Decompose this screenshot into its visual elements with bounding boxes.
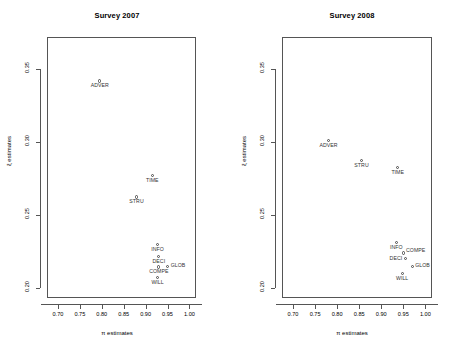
plot-panel-survey-2007: Survey 2007 ADVERTIMESTRUINFODECICOMPEGL…	[0, 0, 234, 355]
y-axis-line	[275, 69, 276, 288]
y-axis-tick-label: 0.35	[254, 62, 270, 76]
y-axis-tick	[36, 69, 40, 70]
x-axis-tick-label: 0.90	[376, 311, 387, 317]
data-layer-right: ADVERSTRUTIMECOMPEINFODECIGLOBWILL	[283, 38, 431, 297]
point-label: COMPE	[149, 269, 168, 274]
figure-canvas: Survey 2007 ADVERTIMESTRUINFODECICOMPEGL…	[0, 0, 469, 355]
x-axis-tick-label: 0.80	[96, 311, 107, 317]
x-axis-tick	[315, 305, 316, 309]
x-axis-tick	[124, 305, 125, 309]
point-label: DECI	[153, 259, 166, 264]
x-axis-tick-label: 0.75	[74, 311, 85, 317]
point-label: INFO	[390, 245, 403, 250]
y-axis-line	[40, 69, 41, 288]
x-axis-tick-label: 0.85	[354, 311, 365, 317]
y-axis-tick	[36, 288, 40, 289]
x-axis-tick	[293, 305, 294, 309]
x-axis-tick	[425, 305, 426, 309]
point-marker-icon	[411, 265, 414, 268]
y-axis-title-left: ξ estimates	[4, 158, 14, 208]
y-axis-tick-label: 0.25	[19, 208, 35, 222]
x-axis-line	[276, 304, 438, 305]
y-axis-tick	[271, 69, 275, 70]
x-axis-tick-label: 0.70	[53, 311, 64, 317]
y-axis-tick-label: 0.30	[19, 135, 35, 149]
x-axis-line	[41, 304, 202, 305]
x-axis-tick-label: 1.00	[184, 311, 195, 317]
x-axis-tick	[381, 305, 382, 309]
panel-title-left: Survey 2007	[0, 11, 234, 20]
x-axis-title-right: π estimates	[235, 330, 469, 336]
point-label: ADVER	[319, 143, 337, 148]
x-axis-tick	[403, 305, 404, 309]
x-axis-tick	[337, 305, 338, 309]
x-axis-tick	[146, 305, 147, 309]
point-marker-icon	[166, 265, 169, 268]
point-label: TIME	[146, 178, 159, 183]
point-label: TIME	[391, 170, 404, 175]
point-marker-icon	[404, 257, 407, 260]
point-label: GLOB	[415, 263, 430, 268]
y-axis-tick-label: 0.30	[254, 135, 270, 149]
x-axis-tick	[58, 305, 59, 309]
y-axis-tick-label: 0.20	[19, 281, 35, 295]
y-axis-title-right: ξ estimates	[239, 158, 249, 208]
y-axis-tick	[271, 215, 275, 216]
point-label: DECI	[390, 256, 403, 261]
y-axis-tick-label: 0.20	[254, 281, 270, 295]
x-axis-tick-label: 0.95	[398, 311, 409, 317]
plot-frame-left: ADVERTIMESTRUINFODECICOMPEGLOBWILL	[47, 37, 196, 298]
data-layer-left: ADVERTIMESTRUINFODECICOMPEGLOBWILL	[48, 38, 195, 297]
x-axis-title-left: π estimates	[0, 330, 234, 336]
x-axis-tick-label: 0.95	[162, 311, 173, 317]
x-axis-tick	[168, 305, 169, 309]
point-label: WILL	[396, 276, 408, 281]
x-axis-tick-label: 1.00	[420, 311, 431, 317]
point-label: STRU	[354, 163, 368, 168]
x-axis-tick	[102, 305, 103, 309]
x-axis-tick	[359, 305, 360, 309]
point-marker-icon	[402, 251, 405, 254]
x-axis-tick-label: 0.90	[140, 311, 151, 317]
panel-title-right: Survey 2008	[235, 11, 469, 20]
y-axis-tick	[36, 215, 40, 216]
x-axis-tick-label: 0.85	[118, 311, 129, 317]
x-axis-tick-label: 0.70	[288, 311, 299, 317]
x-axis-tick-label: 0.80	[332, 311, 343, 317]
point-label: WILL	[151, 280, 163, 285]
y-axis-tick	[36, 142, 40, 143]
y-axis-tick-label: 0.35	[19, 62, 35, 76]
point-label: STRU	[129, 199, 143, 204]
point-label: INFO	[151, 247, 164, 252]
y-axis-tick-label: 0.25	[254, 208, 270, 222]
plot-panel-survey-2008: Survey 2008 ADVERSTRUTIMECOMPEINFODECIGL…	[235, 0, 469, 355]
plot-frame-right: ADVERSTRUTIMECOMPEINFODECIGLOBWILL	[282, 37, 432, 298]
point-label: GLOB	[171, 263, 186, 268]
point-label: COMPE	[406, 248, 425, 253]
x-axis-tick-label: 0.75	[310, 311, 321, 317]
y-axis-tick	[271, 288, 275, 289]
point-label: ADVER	[91, 83, 109, 88]
y-axis-tick	[271, 142, 275, 143]
x-axis-tick	[80, 305, 81, 309]
x-axis-tick	[189, 305, 190, 309]
